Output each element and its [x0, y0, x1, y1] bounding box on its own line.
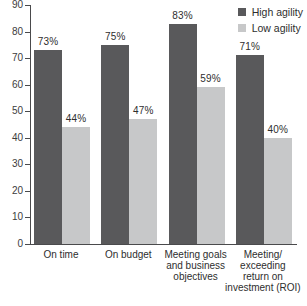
y-tick-label: 50 — [0, 106, 23, 116]
bar-low-agility — [129, 119, 157, 244]
y-tick-mark — [25, 58, 30, 59]
legend-swatch-icon — [238, 24, 246, 32]
bar-value-label: 59% — [189, 73, 233, 84]
bar-high-agility — [34, 50, 62, 244]
y-tick-mark — [25, 32, 30, 33]
y-tick-label: 70 — [0, 53, 23, 63]
y-tick-mark — [25, 5, 30, 6]
legend-label: High agility — [252, 6, 303, 18]
y-tick-label: 80 — [0, 27, 23, 37]
y-tick-label: 0 — [0, 239, 23, 249]
legend-entry: Low agility — [238, 20, 303, 36]
bar-value-label: 44% — [54, 113, 98, 124]
x-category-line: On budget — [90, 249, 166, 260]
y-tick-label: 10 — [0, 212, 23, 222]
y-tick-label: 60 — [0, 80, 23, 90]
x-category-line: investment (ROI) — [225, 282, 301, 293]
bar-low-agility — [264, 138, 292, 244]
x-category-label: On budget — [90, 249, 166, 260]
bar-high-agility — [101, 45, 129, 244]
bar-high-agility — [169, 24, 197, 244]
bar-value-label: 75% — [93, 31, 137, 42]
bar-chart: 73%75%83%71%44%47%59%40% 908070605040302… — [0, 0, 307, 306]
bar-value-label: 83% — [161, 10, 205, 21]
y-tick-label: 30 — [0, 159, 23, 169]
legend-entry: High agility — [238, 4, 303, 20]
x-category-label: On time — [23, 249, 99, 260]
bar-high-agility — [236, 55, 264, 244]
x-category-line: exceeding — [225, 260, 301, 271]
x-category-line: On time — [23, 249, 99, 260]
y-tick-mark — [25, 244, 30, 245]
x-category-line: Meeting goals — [158, 249, 234, 260]
bar-value-label: 73% — [26, 36, 70, 47]
x-category-label: Meeting/exceedingreturn oninvestment (RO… — [225, 249, 301, 293]
y-tick-label: 90 — [0, 0, 23, 10]
legend-label: Low agility — [252, 22, 301, 34]
y-tick-label: 40 — [0, 133, 23, 143]
x-category-line: Meeting/ — [225, 249, 301, 260]
y-tick-mark — [25, 217, 30, 218]
legend-swatch-icon — [238, 8, 246, 16]
x-category-line: objectives — [158, 271, 234, 282]
bar-value-label: 40% — [256, 124, 300, 135]
y-tick-mark — [25, 138, 30, 139]
y-tick-mark — [25, 111, 30, 112]
bar-low-agility — [197, 87, 225, 244]
bar-low-agility — [62, 127, 90, 244]
y-tick-mark — [25, 164, 30, 165]
x-category-line: return on — [225, 271, 301, 282]
x-category-label: Meeting goalsand businessobjectives — [158, 249, 234, 282]
y-tick-mark — [25, 191, 30, 192]
y-tick-label: 20 — [0, 186, 23, 196]
bar-value-label: 47% — [121, 105, 165, 116]
x-category-line: and business — [158, 260, 234, 271]
plot-area: 73%75%83%71%44%47%59%40% — [30, 5, 297, 245]
bar-value-label: 71% — [228, 41, 272, 52]
y-tick-mark — [25, 85, 30, 86]
legend: High agilityLow agility — [238, 4, 303, 36]
